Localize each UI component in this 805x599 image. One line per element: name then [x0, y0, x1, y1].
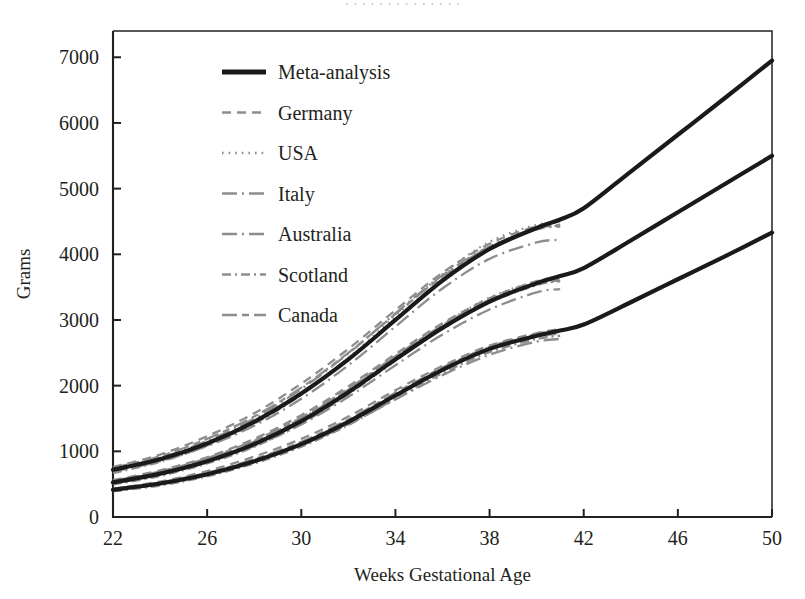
growth-chart-plot: 2226303438424650 01000200030004000500060… — [0, 0, 805, 599]
figure-container: · · · · · · · · · · · · · · 222630343842… — [0, 0, 805, 599]
y-axis-ticks — [113, 57, 121, 517]
meta-analysis-curve — [113, 233, 772, 490]
y-tick-label: 5000 — [59, 178, 99, 200]
x-tick-label: 22 — [103, 527, 123, 549]
legend-label-australia: Australia — [278, 223, 351, 245]
y-tick-label: 3000 — [59, 309, 99, 331]
legend-label-germany: Germany — [278, 102, 352, 125]
legend-label-scotland: Scotland — [278, 264, 348, 286]
x-axis-ticks — [113, 509, 772, 517]
legend-label-meta-analysis: Meta-analysis — [278, 61, 390, 84]
y-tick-label: 4000 — [59, 243, 99, 265]
x-tick-label: 42 — [574, 527, 594, 549]
x-tick-label: 46 — [668, 527, 688, 549]
legend-label-usa: USA — [278, 142, 319, 164]
y-axis-tick-labels: 01000200030004000500060007000 — [59, 46, 99, 528]
y-axis-title: Grams — [13, 249, 34, 300]
y-tick-label: 2000 — [59, 375, 99, 397]
x-tick-label: 34 — [385, 527, 405, 549]
y-tick-label: 6000 — [59, 112, 99, 134]
y-tick-label: 7000 — [59, 46, 99, 68]
x-tick-label: 38 — [480, 527, 500, 549]
meta-analysis-curve — [113, 156, 772, 483]
y-tick-label: 1000 — [59, 440, 99, 462]
x-tick-label: 26 — [197, 527, 217, 549]
chart-legend: Meta-analysisGermanyUSAItalyAustraliaSco… — [222, 61, 390, 326]
country-curves-group — [113, 221, 560, 491]
y-tick-label: 0 — [89, 506, 99, 528]
legend-label-italy: Italy — [278, 183, 315, 206]
legend-label-canada: Canada — [278, 304, 338, 326]
x-axis-tick-labels: 2226303438424650 — [103, 527, 782, 549]
meta-analysis-curve — [113, 61, 772, 470]
x-tick-label: 30 — [291, 527, 311, 549]
x-tick-label: 50 — [762, 527, 782, 549]
x-axis-title: Weeks Gestational Age — [354, 564, 531, 585]
